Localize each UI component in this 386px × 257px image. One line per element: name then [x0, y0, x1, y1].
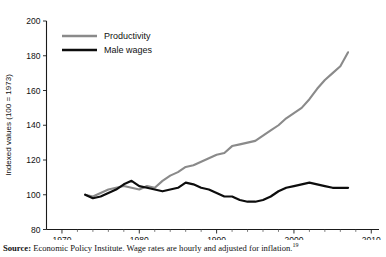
figure-container: 80100120140160180200 1970198019902000201… [0, 0, 386, 257]
y-tick-label-200: 200 [26, 16, 40, 26]
series-line-productivity [85, 52, 348, 196]
y-axis-group: 80100120140160180200 [26, 16, 46, 235]
y-tick-label-120: 120 [26, 155, 40, 165]
legend: Productivity Male wages [62, 31, 153, 55]
y-tick-label-160: 160 [26, 86, 40, 96]
source-note: Source: Economic Policy Institute. Wage … [3, 240, 383, 254]
productivity-vs-wages-line-chart: 80100120140160180200 1970198019902000201… [0, 0, 386, 240]
series-group [85, 52, 348, 201]
source-prefix: Source: [3, 243, 31, 253]
source-footnote-marker: 19 [292, 242, 298, 248]
top-text-bleed [0, 0, 386, 12]
x-axis-group: 19701980199020002010 [47, 230, 381, 241]
legend-label-productivity: Productivity [104, 31, 151, 41]
y-tick-label-140: 140 [26, 120, 40, 130]
legend-label-male-wages: Male wages [104, 45, 153, 55]
y-tick-label-180: 180 [26, 51, 40, 61]
y-axis-title: Indexed values (100 = 1973) [4, 74, 13, 176]
y-tick-label-80: 80 [31, 225, 41, 235]
y-tick-label-100: 100 [26, 190, 40, 200]
source-text: Economic Policy Institute. Wage rates ar… [33, 243, 292, 253]
series-line-male-wages [85, 181, 348, 202]
y-axis-tick-labels: 80100120140160180200 [26, 16, 40, 235]
